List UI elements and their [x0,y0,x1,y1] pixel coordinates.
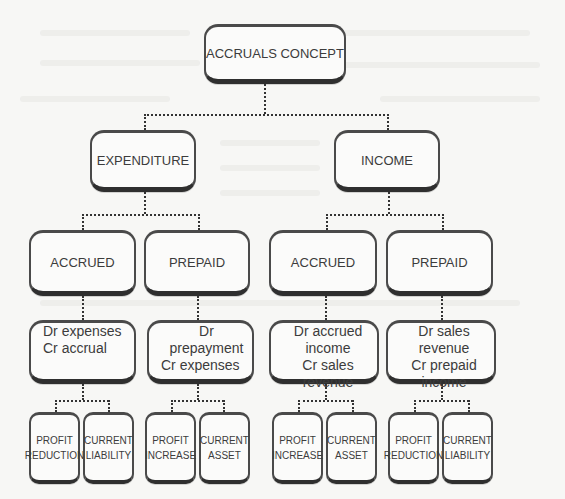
connector-exp-accrued-effects-h [55,400,109,402]
entry-debit: Dr prepayment [161,323,252,357]
effect-node-profit-reduction: PROFIT REDUCTION [29,412,80,484]
connector-inc-prepaid-entry-down [441,384,443,400]
entry-credit: Cr expenses [161,357,240,374]
connector-to-effect [108,400,110,412]
connector-to-effect [298,400,300,412]
effect-line2: ASSET [335,448,368,463]
effect-line2: ASSET [208,448,241,463]
effect-line1: CURRENT [84,433,133,448]
type-label: PREPAID [411,255,467,270]
type-node-income-prepaid: PREPAID [386,230,493,296]
effect-line2: REDUCTION [25,448,84,463]
connector-expenditure-down [144,192,146,214]
effect-line1: CURRENT [327,433,376,448]
effect-node-current-liability: CURRENT LIABILITY [442,412,493,484]
connector-to-exp-prepaid [198,214,200,230]
connector-exp-prepaid-to-entry [197,296,199,320]
effect-node-profit-reduction: PROFIT REDUCTION [388,412,439,484]
root-node-label: ACCRUALS CONCEPT [206,46,344,61]
connector-inc-prepaid-effects-h [414,400,469,402]
connector-exp-prepaid-entry-down [197,384,199,400]
effect-node-current-liability: CURRENT LIABILITY [83,412,134,484]
type-node-income-accrued: ACCRUED [269,230,377,296]
entry-credit: Cr prepaid income [394,357,494,391]
type-label: PREPAID [169,255,225,270]
connector-inc-prepaid-to-entry [441,296,443,320]
connector-inc-accrued-effects-h [298,400,353,402]
effect-line1: PROFIT [152,433,189,448]
connector-income-horizontal [326,214,444,216]
connector-to-inc-prepaid [442,214,444,230]
effect-node-current-asset: CURRENT ASSET [326,412,377,484]
connector-to-effect [414,400,416,412]
entry-debit: Dr accrued income [279,323,377,357]
entry-debit: Dr expenses [43,323,122,340]
connector-root-down [264,84,266,114]
entry-credit: Cr sales revenue [279,357,377,391]
connector-exp-prepaid-effects-h [171,400,224,402]
connector-to-exp-accrued [82,214,84,230]
type-node-expenditure-accrued: ACCRUED [29,230,136,296]
effect-node-current-asset: CURRENT ASSET [199,412,250,484]
entry-node-income-prepaid: Dr sales revenue Cr prepaid income [386,320,496,384]
connector-exp-accrued-entry-down [82,384,84,400]
effect-line2: INCREASE [145,448,196,463]
effect-line2: LIABILITY [445,448,491,463]
connector-income-down [388,192,390,214]
entry-node-expenditure-prepaid: Dr prepayment Cr expenses [147,320,254,384]
entry-node-income-accrued: Dr accrued income Cr sales revenue [269,320,379,384]
type-node-expenditure-prepaid: PREPAID [144,230,250,296]
connector-to-effect [223,400,225,412]
type-label: ACCRUED [291,255,355,270]
effect-node-profit-increase: PROFIT INCREASE [145,412,196,484]
effect-line1: CURRENT [443,433,492,448]
entry-node-expenditure-accrued: Dr expenses Cr accrual [29,320,136,384]
connector-to-effect [171,400,173,412]
connector-expenditure-horizontal [82,214,200,216]
branch-node-expenditure: EXPENDITURE [90,130,196,192]
branch-label-expenditure: EXPENDITURE [97,153,189,168]
effect-line1: PROFIT [279,433,316,448]
effect-line2: LIABILITY [86,448,132,463]
effect-line2: INCREASE [272,448,323,463]
entry-debit: Dr sales revenue [394,323,494,357]
branch-node-income: INCOME [334,130,440,192]
effect-line1: CURRENT [200,433,249,448]
connector-root-horizontal [144,114,389,116]
type-label: ACCRUED [50,255,114,270]
entry-credit: Cr accrual [43,340,107,357]
connector-inc-accrued-to-entry [325,296,327,320]
effect-line1: PROFIT [36,433,73,448]
effect-node-profit-increase: PROFIT INCREASE [272,412,323,484]
connector-to-effect [468,400,470,412]
connector-to-income [387,114,389,130]
connector-to-effect [352,400,354,412]
root-node-accruals-concept: ACCRUALS CONCEPT [204,24,346,84]
effect-line2: REDUCTION [384,448,443,463]
connector-to-expenditure [144,114,146,130]
connector-to-inc-accrued [326,214,328,230]
connector-exp-accrued-to-entry [82,296,84,320]
branch-label-income: INCOME [361,153,413,168]
connector-inc-accrued-entry-down [325,384,327,400]
effect-line1: PROFIT [395,433,432,448]
connector-to-effect [55,400,57,412]
